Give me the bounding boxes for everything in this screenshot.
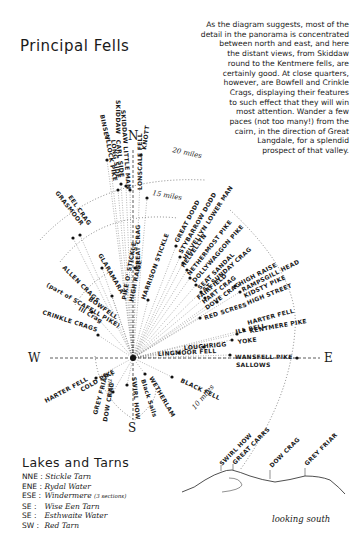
compass-w: W	[28, 351, 41, 365]
label-15-miles: 15 miles	[152, 189, 183, 202]
lake-direction: SW :	[22, 521, 42, 531]
lake-row: SE : Esthwaite Water	[22, 511, 129, 521]
lake-name: Wise Een Tarn	[44, 502, 99, 511]
ridge-spur	[222, 478, 242, 492]
lake-row: NNE : Stickle Tarn	[22, 472, 129, 482]
label-yoke: YOKE	[236, 335, 257, 345]
label-wansfell-pike: WANSFELL PIKE	[235, 353, 293, 360]
profile-caption: looking south	[272, 514, 330, 524]
lake-name: Rydal Water	[44, 482, 90, 491]
lake-direction: ENE :	[22, 482, 42, 492]
south-profile-sketch	[182, 464, 345, 494]
lake-note: (3 sections)	[94, 493, 126, 499]
label-harrison-stickle: HARRISON STICKLE	[139, 232, 170, 300]
lake-row: ENE : Rydal Water	[22, 482, 129, 492]
lake-name: Stickle Tarn	[45, 472, 91, 481]
lakes-and-tarns-legend: Lakes and Tarns NNE : Stickle Tarn ENE :…	[22, 455, 129, 530]
lake-row: ESE : Windermere (3 sections)	[22, 491, 129, 502]
lake-row: SE : Wise Een Tarn	[22, 502, 129, 512]
lake-name: Windermere	[44, 491, 91, 500]
lake-direction: NNE :	[22, 472, 43, 482]
ridge-line	[182, 470, 345, 494]
lake-row: SW : Red Tarn	[22, 521, 129, 531]
label-20-miles: 20 miles	[171, 146, 203, 160]
compass-e: E	[324, 351, 333, 365]
lakes-title: Lakes and Tarns	[22, 455, 129, 470]
profile-label-grey-friar: GREY FRIAR	[303, 431, 339, 467]
lake-name: Esthwaite Water	[44, 511, 107, 520]
profile-label-dow-crag: DOW CRAG	[268, 436, 301, 469]
lake-direction: ESE :	[22, 491, 42, 501]
lake-direction: SE :	[22, 502, 42, 512]
label-lingmoor-fell: LINGMOOR FELL	[158, 347, 217, 357]
label-sallows: SALLOWS	[236, 361, 271, 368]
label-knott: KNOTT	[140, 124, 150, 150]
lake-direction: SE :	[22, 511, 42, 521]
lake-name: Red Tarn	[44, 521, 79, 530]
compass-s: S	[128, 421, 136, 435]
